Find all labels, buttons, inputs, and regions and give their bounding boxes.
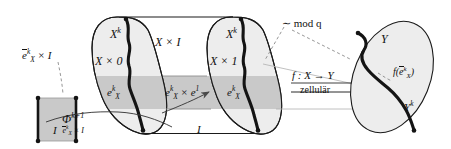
Y-blob-ellipse xyxy=(335,9,449,145)
label-e-X-k-right: ekX xyxy=(227,85,240,100)
label-f-of-ebar: f(ekX) xyxy=(393,66,414,80)
label-mod-q: ∼ mod q xyxy=(282,18,322,29)
label-zellulaer: zellulär xyxy=(300,85,330,95)
label-left-square-I: I xyxy=(53,125,57,136)
ebar-tail: × I xyxy=(35,49,52,61)
label-e-X-k-left: ekX xyxy=(107,85,120,100)
e-left-sub: X xyxy=(115,92,120,101)
f-ebar-suffix: ) xyxy=(411,66,414,77)
phi-sub-tail: × I xyxy=(72,126,84,135)
label-X-times-1: X × 1 xyxy=(210,55,237,67)
mod-q-dashed-lines xyxy=(265,27,352,60)
label-phi-attaching-map: Φk+1 ekX × I xyxy=(62,112,84,137)
label-f-map: f : X → Y xyxy=(292,70,334,81)
f-ebar-overline: e xyxy=(399,67,403,77)
f-ebar-sup: k xyxy=(404,65,407,72)
label-X-k-right: Xk xyxy=(226,27,237,40)
ebar-label-pointer xyxy=(58,62,63,94)
phi-sub-ebar: e xyxy=(62,127,66,135)
label-bottom-I: I xyxy=(197,124,201,135)
X-k-left-sup: k xyxy=(117,26,121,35)
cylinder-mapping-diagram: ekX × I I Φk+1 ekX × I Xk X × 0 ekX X × … xyxy=(0,0,451,149)
label-X-times-I: X × I xyxy=(155,36,180,48)
eband-tail-sup: 1 xyxy=(196,84,200,93)
label-Y-k: Yk xyxy=(404,100,413,113)
eband-tail: × e xyxy=(178,86,196,98)
label-X-k-left: Xk xyxy=(110,27,121,40)
label-X-times-0: X × 0 xyxy=(95,55,122,67)
X-k-right-sup: k xyxy=(233,26,237,35)
e-right-sub: X xyxy=(235,92,240,101)
label-e-X-k-times-e1: ekX × e1 xyxy=(165,85,199,100)
ebar-overline: e xyxy=(22,50,27,61)
Y-k-sup: k xyxy=(410,99,413,108)
phi-superscript: k+1 xyxy=(71,111,84,120)
label-ebar-times-I: ekX × I xyxy=(22,48,51,63)
label-Y: Y xyxy=(381,33,388,45)
